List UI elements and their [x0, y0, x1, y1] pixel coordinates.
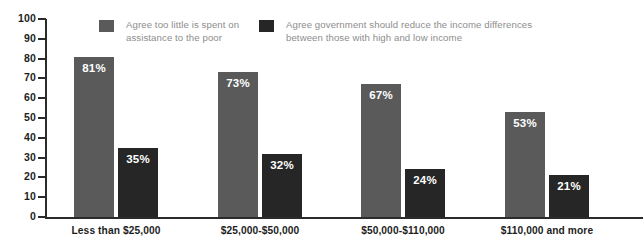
y-axis-tick-label: 50: [6, 111, 36, 123]
bar-value-label: 21%: [549, 180, 589, 192]
y-axis-tick: [38, 18, 46, 20]
y-axis-tick: [38, 97, 46, 99]
y-axis-tick: [38, 137, 46, 139]
bar-primary: 81%: [74, 57, 114, 217]
y-axis-tick-label: 80: [6, 52, 36, 64]
x-axis-line: [45, 217, 643, 219]
bar-value-label: 24%: [405, 174, 445, 186]
y-axis-tick-label: 30: [6, 151, 36, 163]
y-axis-tick-label: 0: [6, 210, 36, 222]
bar-secondary: 35%: [118, 148, 158, 217]
y-axis-tick-label: 70: [6, 71, 36, 83]
bar-secondary: 32%: [262, 154, 302, 217]
y-axis-tick: [38, 157, 46, 159]
bar-value-label: 32%: [262, 159, 302, 171]
y-axis-tick-label: 100: [6, 12, 36, 24]
y-axis-tick-label: 40: [6, 131, 36, 143]
y-axis-tick: [38, 77, 46, 79]
bar-chart: Agree too little is spent on assistance …: [0, 0, 644, 246]
bar-secondary: 21%: [549, 175, 589, 217]
y-axis-tick-label: 90: [6, 32, 36, 44]
plot-area: 1009080706050403020100 81%35%73%32%67%24…: [0, 0, 644, 246]
bar-primary: 53%: [505, 112, 545, 217]
y-axis-tick-label: 20: [6, 170, 36, 182]
bar-secondary: 24%: [405, 169, 445, 217]
y-axis-tick: [38, 216, 46, 218]
y-axis-tick: [38, 38, 46, 40]
category-label: Less than $25,000: [34, 225, 198, 236]
bar-value-label: 35%: [118, 153, 158, 165]
bar-value-label: 73%: [218, 77, 258, 89]
category-label: $25,000-$50,000: [178, 225, 342, 236]
bar-value-label: 53%: [505, 117, 545, 129]
y-axis-tick: [38, 117, 46, 119]
y-axis-tick: [38, 58, 46, 60]
y-axis-tick-label: 60: [6, 91, 36, 103]
bar-primary: 73%: [218, 72, 258, 217]
bar-value-label: 81%: [74, 62, 114, 74]
y-axis-line: [45, 19, 47, 219]
category-label: $50,000-$110,000: [321, 225, 485, 236]
category-label: $110,000 and more: [465, 225, 629, 236]
bar-primary: 67%: [361, 84, 401, 217]
y-axis-tick-label: 10: [6, 190, 36, 202]
y-axis-tick: [38, 176, 46, 178]
y-axis-tick: [38, 196, 46, 198]
bar-value-label: 67%: [361, 89, 401, 101]
